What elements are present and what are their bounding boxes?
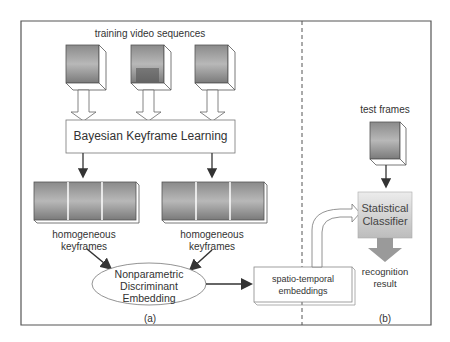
- keyframes-left-label: homogeneous keyframes: [44, 229, 124, 253]
- training-face-1: [66, 45, 106, 90]
- nde-label: Nonparametric Discriminant Embedding: [100, 268, 198, 304]
- recognition-result-label: recognition result: [355, 266, 415, 290]
- keyframe-strip-right: [162, 182, 267, 223]
- training-face-3: [195, 45, 235, 90]
- hollow-arrow-3: [200, 90, 225, 121]
- panel-a-label: (a): [135, 313, 165, 325]
- bayesian-label: Bayesian Keyframe Learning: [66, 130, 235, 142]
- test-frames-label: test frames: [355, 104, 415, 116]
- classifier-label: Statistical Classifier: [358, 202, 412, 228]
- keyframe-strip-left: [34, 182, 139, 223]
- training-title: training video sequences: [90, 28, 210, 40]
- panel-b-label: (b): [370, 313, 400, 325]
- keyframes-right-label: homogeneous keyframes: [172, 229, 252, 253]
- test-face: [370, 122, 406, 165]
- hollow-arrow-1: [71, 90, 96, 121]
- diagram-canvas: [0, 0, 450, 342]
- hollow-arrow-2: [136, 90, 161, 121]
- curved-arrow: [312, 204, 360, 267]
- training-face-2: [131, 45, 171, 90]
- output-arrow: [368, 238, 402, 262]
- embeddings-label: spatio-temporal embeddings: [254, 273, 352, 297]
